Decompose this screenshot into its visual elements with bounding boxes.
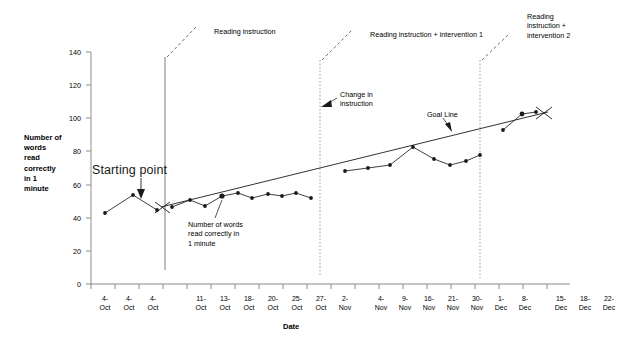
x-tick-label-14: 30- Nov bbox=[464, 294, 490, 312]
x-tick-16-day: 8- bbox=[512, 294, 538, 303]
x-axis-ticks bbox=[91, 284, 547, 289]
data-line-baseline bbox=[105, 195, 157, 213]
x-tick-label-0: 4- Oct bbox=[92, 294, 118, 312]
y-tick-label-140: 140 bbox=[55, 48, 81, 57]
x-tick-5-day: 18- bbox=[236, 294, 262, 303]
x-tick-10-day: 4- bbox=[368, 294, 394, 303]
x-tick-14-month: Nov bbox=[464, 303, 490, 312]
x-tick-18-month: Dec bbox=[572, 303, 598, 312]
x-tick-19-day: 22- bbox=[596, 294, 620, 303]
x-tick-label-7: 25- Oct bbox=[284, 294, 310, 312]
x-tick-label-16: 8- Dec bbox=[512, 294, 538, 312]
x-tick-5-month: Oct bbox=[236, 303, 262, 312]
y-tick-label-60: 60 bbox=[55, 181, 81, 190]
x-tick-label-15: 1- Dec bbox=[488, 294, 514, 312]
x-tick-9-month: Nov bbox=[332, 303, 358, 312]
x-tick-14-day: 30- bbox=[464, 294, 490, 303]
x-tick-7-day: 25- bbox=[284, 294, 310, 303]
x-tick-label-5: 18- Oct bbox=[236, 294, 262, 312]
x-tick-8-day: 27- bbox=[308, 294, 334, 303]
x-tick-3-month: Oct bbox=[188, 303, 214, 312]
x-tick-label-18: 18- Dec bbox=[572, 294, 598, 312]
annotation-phase-3-line-2: instruction + bbox=[527, 21, 607, 30]
x-tick-8-month: Oct bbox=[308, 303, 334, 312]
goal-line-arrowhead bbox=[445, 122, 452, 132]
annotation-goal-line: Goal Line bbox=[427, 110, 458, 119]
annotation-phase-2-label: Reading instruction + intervention 1 bbox=[370, 30, 483, 39]
annotation-change-line-1: Change in bbox=[340, 90, 410, 99]
x-tick-0-month: Oct bbox=[92, 303, 118, 312]
x-tick-0-day: 4- bbox=[92, 294, 118, 303]
x-tick-12-day: 16- bbox=[416, 294, 442, 303]
x-tick-9-day: 2- bbox=[332, 294, 358, 303]
annotation-phase-3-line-3: intervention 2 bbox=[527, 31, 607, 40]
x-tick-4-month: Oct bbox=[212, 303, 238, 312]
data-note-leader bbox=[215, 200, 222, 218]
x-tick-label-4: 13- Oct bbox=[212, 294, 238, 312]
phase-line-3-leader bbox=[482, 33, 510, 60]
x-tick-label-1: 4- Oct bbox=[116, 294, 142, 312]
x-tick-16-month: Dec bbox=[512, 303, 538, 312]
y-tick-label-80: 80 bbox=[55, 147, 81, 156]
annotation-phase-3-line-1: Reading bbox=[527, 12, 607, 21]
data-line-intervention-1 bbox=[345, 147, 480, 171]
x-tick-15-month: Dec bbox=[488, 303, 514, 312]
x-axis-title: Date bbox=[283, 322, 299, 331]
x-tick-7-month: Oct bbox=[284, 303, 310, 312]
x-tick-2-month: Oct bbox=[140, 303, 166, 312]
y-tick-label-0: 0 bbox=[55, 280, 81, 289]
x-tick-11-month: Nov bbox=[392, 303, 418, 312]
x-tick-label-3: 11- Oct bbox=[188, 294, 214, 312]
x-tick-12-month: Nov bbox=[416, 303, 442, 312]
x-tick-6-month: Oct bbox=[260, 303, 286, 312]
change-instruction-arrowhead bbox=[321, 100, 332, 107]
x-tick-4-day: 13- bbox=[212, 294, 238, 303]
annotation-change-in-instruction: Change in instruction bbox=[340, 90, 410, 109]
phase-line-1-leader bbox=[167, 27, 196, 57]
data-line-intervention-2 bbox=[503, 112, 536, 130]
annotation-data-note-line-2: read correctly in bbox=[188, 229, 278, 238]
annotation-change-line-2: instruction bbox=[340, 99, 410, 108]
goal-line-end-marker bbox=[536, 107, 552, 119]
x-tick-11-day: 9- bbox=[392, 294, 418, 303]
annotation-data-note-line-3: 1 minute bbox=[188, 239, 278, 248]
phase-line-2-leader bbox=[322, 30, 352, 60]
y-tick-label-100: 100 bbox=[55, 114, 81, 123]
x-tick-3-day: 11- bbox=[188, 294, 214, 303]
x-tick-label-11: 9- Nov bbox=[392, 294, 418, 312]
y-tick-label-20: 20 bbox=[55, 247, 81, 256]
x-tick-2-day: 4- bbox=[140, 294, 166, 303]
goal-line bbox=[161, 112, 548, 207]
x-tick-label-2: 4- Oct bbox=[140, 294, 166, 312]
y-tick-label-40: 40 bbox=[55, 214, 81, 223]
data-points-intervention-2 bbox=[501, 110, 538, 132]
x-tick-17-day: 15- bbox=[548, 294, 574, 303]
x-tick-label-10: 4- Nov bbox=[368, 294, 394, 312]
x-tick-10-month: Nov bbox=[368, 303, 394, 312]
y-axis-title-line-4: correctly bbox=[24, 164, 94, 174]
x-tick-label-17: 15- Dec bbox=[548, 294, 574, 312]
x-tick-15-day: 1- bbox=[488, 294, 514, 303]
x-tick-label-6: 20- Oct bbox=[260, 294, 286, 312]
x-tick-label-9: 2- Nov bbox=[332, 294, 358, 312]
x-tick-label-13: 21- Nov bbox=[440, 294, 466, 312]
starting-point-arrowhead bbox=[137, 189, 145, 199]
x-tick-label-8: 27- Oct bbox=[308, 294, 334, 312]
annotation-starting-point: Starting point bbox=[92, 163, 167, 177]
y-tick-label-120: 120 bbox=[55, 81, 81, 90]
annotation-data-note: Number of words read correctly in 1 minu… bbox=[188, 220, 278, 248]
x-tick-1-day: 4- bbox=[116, 294, 142, 303]
annotation-phase-1-label: Reading instruction bbox=[214, 27, 276, 36]
x-tick-13-month: Nov bbox=[440, 303, 466, 312]
x-tick-18-day: 18- bbox=[572, 294, 598, 303]
y-axis-title-line-1: Number of bbox=[24, 133, 94, 143]
x-tick-13-day: 21- bbox=[440, 294, 466, 303]
x-tick-19-month: Dec bbox=[596, 303, 620, 312]
annotation-data-note-line-1: Number of words bbox=[188, 220, 278, 229]
data-line-reading-instruction bbox=[172, 193, 311, 207]
x-tick-label-12: 16- Nov bbox=[416, 294, 442, 312]
annotation-phase-3-label: Reading instruction + intervention 2 bbox=[527, 12, 607, 40]
x-tick-1-month: Oct bbox=[116, 303, 142, 312]
x-tick-17-month: Dec bbox=[548, 303, 574, 312]
